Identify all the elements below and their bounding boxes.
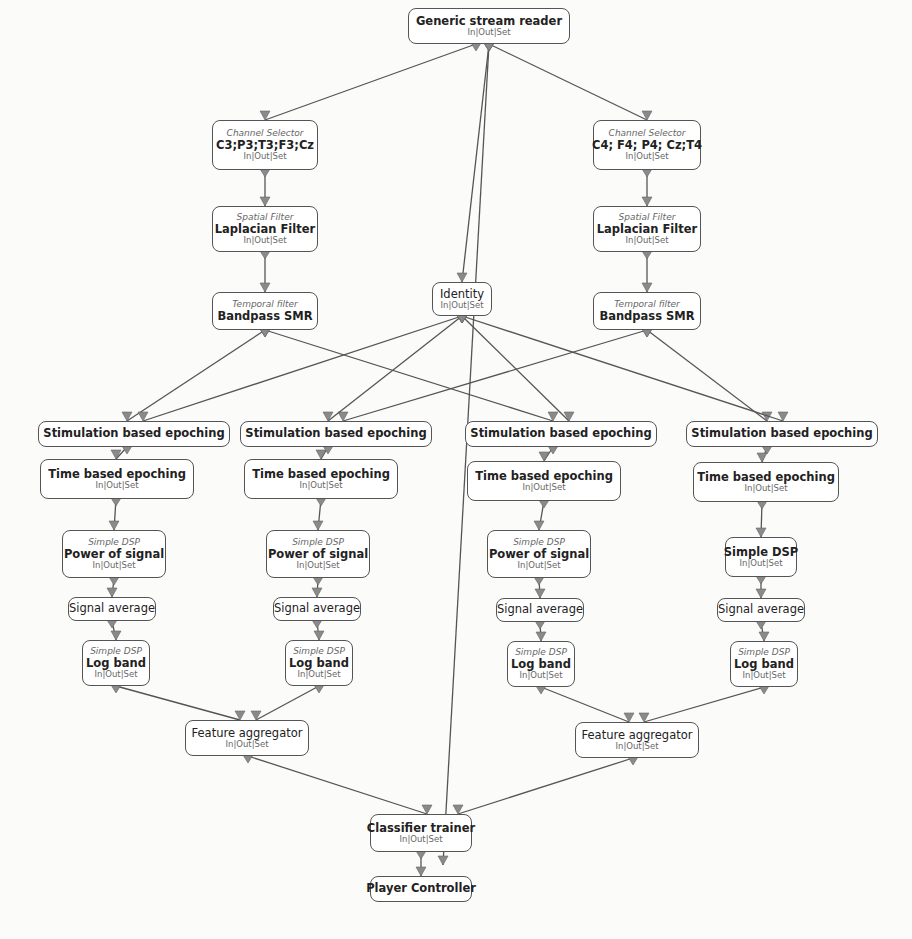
connection-line [647,330,767,421]
box-node-avg1[interactable]: Signal average [68,597,156,621]
box-node-clf[interactable]: Classifier trainer In|Out|Set [370,814,472,852]
box-node-dsp4[interactable]: Simple DSP In|Out|Set [725,537,797,577]
box-node-log3[interactable]: Simple DSP Log band In|Out|Set [507,641,575,687]
input-connector-icon[interactable] [313,521,323,530]
input-connector-icon[interactable] [438,856,448,865]
box-node-time3[interactable]: Time based epoching In|Out|Set [467,461,621,501]
box-name-label: Stimulation based epoching [691,427,872,440]
input-connector-icon[interactable] [260,197,270,206]
box-ports-label: In|Out|Set [96,481,139,491]
input-connector-icon[interactable] [416,867,426,876]
box-node-identity[interactable]: Identity In|Out|Set [432,282,492,316]
box-node-avg3[interactable]: Signal average [496,598,584,622]
input-connector-icon[interactable] [535,589,545,598]
box-node-agg_r[interactable]: Feature aggregator In|Out|Set [575,722,699,758]
input-connector-icon[interactable] [642,283,652,292]
box-name-label: Bandpass SMR [599,310,694,323]
box-name-label: Feature aggregator [192,727,303,740]
output-connector-icon[interactable] [313,577,323,585]
input-connector-icon[interactable] [642,197,652,206]
box-node-stim1[interactable]: Stimulation based epoching [38,421,230,447]
input-connector-icon[interactable] [109,521,119,530]
box-node-stim4[interactable]: Stimulation based epoching [686,421,878,447]
output-connector-icon[interactable] [642,251,652,259]
box-node-agg_l[interactable]: Feature aggregator In|Out|Set [185,720,309,756]
input-connector-icon[interactable] [111,631,121,640]
output-connector-icon[interactable] [109,577,119,585]
output-connector-icon[interactable] [756,621,766,629]
output-connector-icon[interactable] [471,43,481,51]
box-name-label: Laplacian Filter [597,223,697,236]
output-connector-icon[interactable] [536,686,546,694]
box-name-label: Signal average [718,603,804,616]
output-connector-icon[interactable] [107,620,117,628]
box-ports-label: In|Out|Set [468,28,511,38]
box-ports-label: In|Out|Set [300,481,343,491]
box-node-chsel_r[interactable]: Channel Selector C4; F4; P4; Cz;T4 In|Ou… [593,120,701,170]
input-connector-icon[interactable] [759,632,769,641]
input-connector-icon[interactable] [457,273,467,282]
output-connector-icon[interactable] [316,498,326,506]
box-node-time2[interactable]: Time based epoching In|Out|Set [244,459,398,499]
box-node-reader[interactable]: Generic stream reader In|Out|Set [408,8,570,44]
output-connector-icon[interactable] [535,621,545,629]
box-node-log2[interactable]: Simple DSP Log band In|Out|Set [285,640,353,686]
output-connector-icon[interactable] [759,686,769,694]
output-connector-icon[interactable] [534,577,544,585]
connection-line [116,686,240,720]
output-connector-icon[interactable] [539,500,549,508]
input-connector-icon[interactable] [756,528,766,537]
box-node-spat_l[interactable]: Spatial Filter Laplacian Filter In|Out|S… [212,206,318,252]
input-connector-icon[interactable] [312,588,322,597]
input-connector-icon[interactable] [536,632,546,641]
input-connector-icon[interactable] [122,412,132,421]
input-connector-icon[interactable] [316,450,326,459]
input-connector-icon[interactable] [107,588,117,597]
box-node-pow3[interactable]: Simple DSP Power of signal In|Out|Set [487,530,591,578]
box-node-stim3[interactable]: Stimulation based epoching [465,421,657,447]
box-node-log4[interactable]: Simple DSP Log band In|Out|Set [730,641,798,687]
input-connector-icon[interactable] [314,631,324,640]
output-connector-icon[interactable] [416,851,426,859]
output-connector-icon[interactable] [484,43,494,51]
box-node-avg2[interactable]: Signal average [273,597,361,621]
box-node-player[interactable]: Player Controller [370,876,472,902]
box-ports-label: In|Out|Set [518,561,561,571]
box-node-time1[interactable]: Time based epoching In|Out|Set [40,459,194,499]
output-connector-icon[interactable] [757,501,767,509]
input-connector-icon[interactable] [323,412,333,421]
output-connector-icon[interactable] [642,169,652,177]
output-connector-icon[interactable] [111,685,121,693]
box-node-time4[interactable]: Time based epoching In|Out|Set [693,462,839,502]
output-connector-icon[interactable] [314,685,324,693]
output-connector-icon[interactable] [260,169,270,177]
box-name-label: Log band [86,657,146,670]
output-connector-icon[interactable] [312,620,322,628]
output-connector-icon[interactable] [628,757,638,765]
box-node-stim2[interactable]: Stimulation based epoching [240,421,432,447]
box-node-avg4[interactable]: Signal average [717,598,805,622]
connection-line [443,44,489,865]
input-connector-icon[interactable] [564,412,574,421]
input-connector-icon[interactable] [756,589,766,598]
box-name-label: Classifier trainer [367,822,475,835]
input-connector-icon[interactable] [260,283,270,292]
box-ports-label: In|Out|Set [626,152,669,162]
box-node-pow1[interactable]: Simple DSP Power of signal In|Out|Set [62,530,166,578]
box-name-label: Stimulation based epoching [245,427,426,440]
box-node-temp_r[interactable]: Temporal filter Bandpass SMR [593,292,701,330]
box-node-temp_l[interactable]: Temporal filter Bandpass SMR [212,292,318,330]
output-connector-icon[interactable] [260,251,270,259]
output-connector-icon[interactable] [243,755,253,763]
box-name-label: Log band [289,657,349,670]
input-connector-icon[interactable] [534,521,544,530]
box-node-spat_r[interactable]: Spatial Filter Laplacian Filter In|Out|S… [593,206,701,252]
box-node-log1[interactable]: Simple DSP Log band In|Out|Set [82,640,150,686]
output-connector-icon[interactable] [756,576,766,584]
input-connector-icon[interactable] [757,453,767,462]
box-node-pow2[interactable]: Simple DSP Power of signal In|Out|Set [266,530,370,578]
output-connector-icon[interactable] [111,498,121,506]
connection-line [458,758,633,814]
box-node-chsel_l[interactable]: Channel Selector C3;P3;T3;F3;Cz In|Out|S… [212,120,318,170]
box-type-label: Temporal filter [232,299,298,309]
